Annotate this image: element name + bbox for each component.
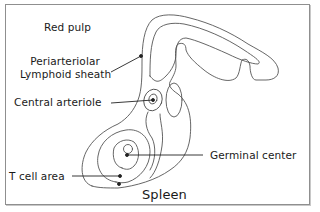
label-central-arteriole: Central arteriole — [14, 96, 102, 109]
vessel-branch — [146, 112, 163, 178]
label-pals-line2: Lymphoid sheath — [20, 68, 110, 81]
label-pals: Periarteriolar Lymphoid sheath — [20, 55, 110, 81]
germinal-center-circle — [124, 145, 133, 154]
leader-pals-dot — [140, 55, 143, 58]
diagram-title: Spleen — [142, 187, 187, 203]
outer-white-pulp-outline — [82, 15, 278, 188]
label-t-cell-area: T cell area — [9, 170, 65, 183]
label-red-pulp: Red pulp — [44, 21, 91, 34]
leader-pals — [111, 56, 141, 72]
label-germinal-center: Germinal center — [210, 149, 297, 162]
label-pals-line1: Periarteriolar — [20, 55, 110, 68]
red-pulp-oval — [166, 83, 182, 117]
leader-central-arteriole — [111, 100, 153, 103]
inner-sheath-outline — [150, 23, 259, 81]
leader-central-arteriole-dot — [152, 99, 155, 102]
leader-germinal-center-dot — [126, 154, 129, 157]
leader-outer-ring-dot — [118, 183, 121, 186]
follicle-outer-ring — [98, 130, 150, 183]
